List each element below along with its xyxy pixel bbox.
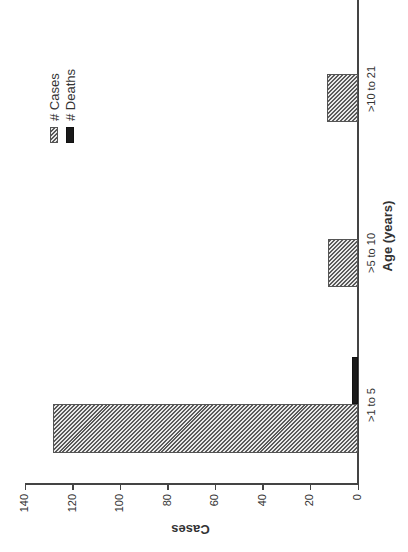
bar-cases-1: [53, 404, 358, 453]
legend-swatch-deaths: [66, 127, 74, 143]
legend-item-cases: # Cases: [46, 69, 62, 143]
x-category-label-1: >1 to 5: [365, 365, 377, 445]
y-tick-label: 0: [351, 494, 363, 524]
chart-frame: 020406080100120140 Cases >1 to 5 >5 to 1…: [0, 0, 408, 552]
y-tick-label: 20: [303, 494, 315, 524]
x-category-label-3: >10 to 21: [365, 49, 377, 129]
y-tick-label: 100: [113, 494, 125, 524]
y-tick-label: 60: [208, 494, 220, 524]
y-axis-line: [25, 484, 358, 486]
y-tick-label: 140: [18, 494, 30, 524]
x-category-label-2: >5 to 10: [365, 213, 377, 293]
legend: # Cases # Deaths: [46, 69, 78, 143]
legend-label-deaths: # Deaths: [63, 69, 78, 121]
legend-swatch-cases: [50, 127, 58, 143]
legend-label-cases: # Cases: [47, 73, 62, 121]
y-tick: [215, 484, 217, 490]
y-tick: [358, 484, 360, 490]
y-tick-label: 80: [161, 494, 173, 524]
y-tick-label: 40: [256, 494, 268, 524]
bar-cases-3: [327, 74, 358, 122]
y-tick: [72, 484, 74, 490]
y-tick-label: 120: [66, 494, 78, 524]
y-tick: [310, 484, 312, 490]
y-axis-title: Cases: [166, 522, 216, 537]
legend-item-deaths: # Deaths: [62, 69, 78, 143]
y-tick: [120, 484, 122, 490]
y-tick: [262, 484, 264, 490]
x-axis-title: Age (years): [380, 186, 395, 286]
bar-deaths-1: [352, 357, 358, 404]
bar-cases-2: [328, 239, 358, 287]
y-tick: [25, 484, 27, 490]
y-tick: [167, 484, 169, 490]
